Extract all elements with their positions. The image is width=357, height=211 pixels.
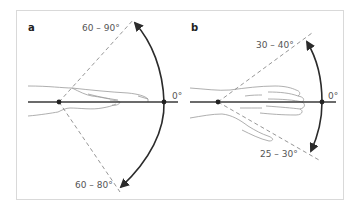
panel-a-pivot-dot: [57, 100, 62, 105]
panel-b-ulnar-angle: 25 – 30°: [260, 149, 298, 159]
panel-b-zero-label: 0°: [328, 91, 338, 101]
panel-a-arc-dot: [162, 100, 167, 105]
panel-a-flexion-angle: 60 – 80°: [75, 180, 113, 190]
panel-b-radial-angle: 30 – 40°: [256, 40, 294, 50]
figure-frame: [17, 11, 344, 200]
panel-a-extension-angle: 60 – 90°: [82, 23, 120, 33]
panel-b-label: b: [191, 22, 198, 33]
panel-a-zero-label: 0°: [172, 91, 182, 101]
panel-b-pivot-dot: [216, 100, 221, 105]
panel-b-arc-dot: [320, 100, 325, 105]
range-of-motion-figure: a 60 – 90° 60 – 80° 0° b: [0, 0, 357, 211]
panel-a-label: a: [28, 22, 35, 33]
